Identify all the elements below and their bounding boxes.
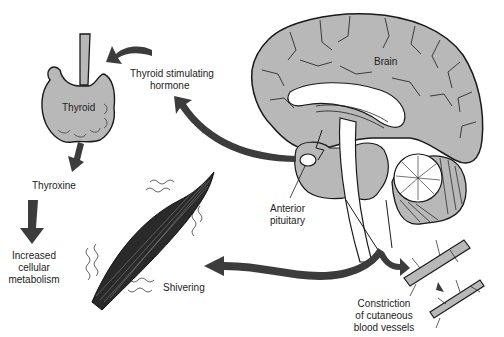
arrow-thyroid-to-thyroxine <box>68 142 84 172</box>
arrow-thyroxine-to-metabolism <box>20 200 44 244</box>
label-anterior-line2: pituitary <box>270 215 305 227</box>
label-tsh-line2: hormone <box>150 80 189 92</box>
arrow-tsh-to-thyroid <box>106 46 152 64</box>
label-constrict-line2: of cutaneous <box>350 310 418 322</box>
label-metab-line3: metabolism <box>6 274 62 286</box>
diagram-canvas: Brain Thyroid Thyroid stimulating hormon… <box>0 0 504 337</box>
pituitary-gland <box>300 154 316 166</box>
label-thyroxine: Thyroxine <box>32 180 76 192</box>
label-shivering: Shivering <box>163 282 205 294</box>
label-thyroid: Thyroid <box>62 102 95 114</box>
label-constrict-line3: blood vessels <box>348 322 420 334</box>
label-anterior-line1: Anterior <box>270 203 305 215</box>
arrow-to-vessels <box>378 252 410 276</box>
label-brain: Brain <box>374 56 397 68</box>
label-metab-line1: Increased <box>10 250 58 262</box>
label-metab-line2: cellular <box>10 262 58 274</box>
label-constrict-line1: Constriction <box>352 298 416 310</box>
thyroid-illustration <box>42 34 115 142</box>
label-tsh-line1: Thyroid stimulating <box>130 68 214 80</box>
